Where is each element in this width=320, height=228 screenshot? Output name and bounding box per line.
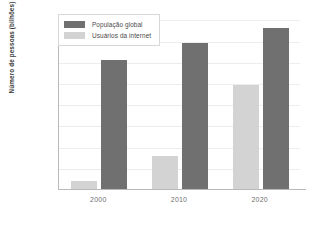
x-axis-extension <box>300 189 306 190</box>
bar-2020-usuarios-da-internet[interactable] <box>233 85 259 189</box>
legend-item[interactable]: População global <box>64 19 151 30</box>
legend-label-usuarios-da-internet: Usuários da internet <box>92 32 151 39</box>
bar-2010-populacao-global[interactable] <box>182 43 208 189</box>
legend-label-populacao-global: População global <box>92 21 143 28</box>
legend-swatch-populacao-global <box>64 21 85 28</box>
chart-legend: População global Usuários da internet <box>58 14 160 46</box>
bar-2000-populacao-global[interactable] <box>101 60 127 189</box>
bar-group-2020 <box>220 14 301 189</box>
bar-chart: 1,02,03,04,05,06,07,08,0 Número de pesso… <box>0 0 320 228</box>
bar-2000-usuarios-da-internet[interactable] <box>71 181 97 190</box>
bar-2010-usuarios-da-internet[interactable] <box>152 156 178 189</box>
x-axis-tick-label: 2020 <box>252 196 268 203</box>
legend-swatch-usuarios-da-internet <box>64 32 85 39</box>
y-axis-title: Número de pessoas (bilhões) <box>8 0 15 143</box>
x-axis-tick-label: 2000 <box>90 196 106 203</box>
bar-2020-populacao-global[interactable] <box>263 28 289 189</box>
legend-item[interactable]: Usuários da internet <box>64 30 151 41</box>
x-axis-tick-label: 2010 <box>171 196 187 203</box>
